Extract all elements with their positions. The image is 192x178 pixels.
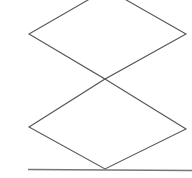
canvas-background xyxy=(0,0,192,178)
line-drawing-svg xyxy=(0,0,192,178)
figure-canvas xyxy=(0,0,192,178)
